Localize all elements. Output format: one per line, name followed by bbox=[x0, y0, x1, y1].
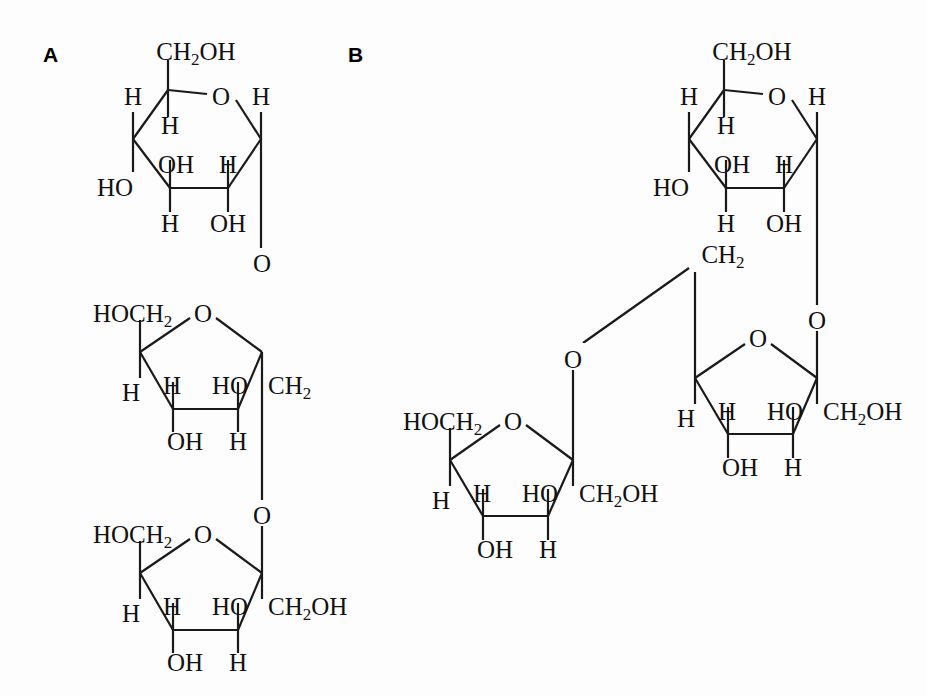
atom-label-h-c2-up: H bbox=[219, 151, 237, 178]
linker-b-right: O bbox=[806, 305, 828, 334]
atom-label-oh-c3: OH bbox=[714, 151, 750, 178]
bond-o-c2 bbox=[526, 425, 573, 460]
linker-a-top: O bbox=[251, 248, 273, 277]
atom-label-ring-oxygen: O bbox=[212, 83, 230, 110]
atom-label-ho-c1: HO bbox=[767, 398, 803, 425]
atom-label-h-c3-up: H bbox=[163, 593, 181, 620]
atom-label-h-c3-up: H bbox=[163, 372, 181, 399]
atom-label-hoch2: HOCH2 bbox=[93, 521, 172, 552]
atom-label-h-c5-down: H bbox=[161, 112, 179, 139]
atom-label-hoch2: HOCH2 bbox=[403, 408, 482, 439]
panel-label-a: A bbox=[43, 43, 58, 66]
ring-b-furanose-left: HOCH2 O H H HO CH2OH OH H bbox=[403, 408, 658, 563]
bond-ch2-to-o bbox=[583, 268, 689, 343]
atom-label-oh-c2-down: OH bbox=[210, 210, 246, 237]
atom-label-ring-oxygen: O bbox=[194, 521, 212, 548]
atom-label-h-c1-down: H bbox=[784, 454, 802, 481]
atom-label-h-c5-down: H bbox=[717, 112, 735, 139]
bond-c4-o bbox=[695, 344, 745, 378]
atom-label-ch2oh-arm: CH2OH bbox=[579, 480, 658, 511]
figure-root: A bbox=[0, 0, 927, 696]
atom-label-h-c2-up: H bbox=[775, 151, 793, 178]
atom-label-ch2oh: CH2OH bbox=[156, 38, 235, 69]
ring-a-pyranose: CH2OH O H H H OH H HO H OH bbox=[97, 38, 270, 248]
bond-c5-o bbox=[724, 90, 763, 94]
atom-label-ring-oxygen: O bbox=[194, 300, 212, 327]
atom-label-h-c1-up: H bbox=[808, 83, 826, 110]
linker-a-bottom: O bbox=[251, 500, 273, 529]
ring-a-furanose-bottom: HOCH2 O H H HO CH2OH OH H bbox=[93, 521, 347, 676]
atom-label-oh-c2-down: OH bbox=[766, 210, 802, 237]
atom-label-ho-c1: HO bbox=[522, 480, 558, 507]
atom-label-h-c1-down: H bbox=[229, 649, 247, 676]
atom-label-linker-o-right: O bbox=[808, 307, 826, 334]
bond-o-c2 bbox=[216, 318, 262, 352]
atom-label-h-c3-up: H bbox=[718, 398, 736, 425]
atom-label-linker-o-top: O bbox=[253, 250, 271, 277]
atom-label-h-c3-down: H bbox=[717, 210, 735, 237]
atom-label-ho-c1: HO bbox=[212, 593, 248, 620]
atom-label-h-c4-up: H bbox=[680, 83, 698, 110]
atom-label-h-c4-left: H bbox=[122, 600, 140, 627]
panel-label-b: B bbox=[348, 43, 363, 66]
atom-label-ch2oh-arm: CH2OH bbox=[823, 398, 902, 429]
atom-label-h-c3-up: H bbox=[473, 480, 491, 507]
atom-label-ho-c1: HO bbox=[212, 372, 248, 399]
atom-label-oh-c3-down: OH bbox=[167, 428, 203, 455]
atom-label-ring-oxygen: O bbox=[504, 408, 522, 435]
ring-b-furanose-right: CH2 O H H HO CH2OH OH H bbox=[677, 241, 902, 481]
atom-label-h-c1-down: H bbox=[539, 536, 557, 563]
atom-label-ho-c4: HO bbox=[97, 174, 133, 201]
bond-o-c2 bbox=[216, 539, 262, 573]
atom-label-oh-c3: OH bbox=[158, 151, 194, 178]
chemical-structure-canvas: A bbox=[0, 0, 927, 696]
atom-label-ring-oxygen: O bbox=[768, 83, 786, 110]
atom-label-ch2oh-arm: CH2OH bbox=[268, 593, 347, 624]
atom-label-ho-c4: HO bbox=[653, 174, 689, 201]
atom-label-bridge-o: O bbox=[564, 346, 582, 373]
atom-label-oh-c3-down: OH bbox=[477, 536, 513, 563]
atom-label-ch2oh: CH2OH bbox=[712, 38, 791, 69]
atom-label-h-c1-down: H bbox=[229, 428, 247, 455]
atom-label-ch2-bridge: CH2 bbox=[701, 241, 744, 272]
bridge-b-ch2-o: O bbox=[561, 268, 689, 460]
atom-label-ch2-arm: CH2 bbox=[268, 372, 311, 403]
atom-label-oh-c3-down: OH bbox=[167, 649, 203, 676]
ring-a-furanose-middle: HOCH2 O H H HO CH2 OH H bbox=[93, 300, 311, 500]
atom-label-h-c4-left: H bbox=[122, 379, 140, 406]
atom-label-hoch2: HOCH2 bbox=[93, 300, 172, 331]
atom-label-linker-o-bottom: O bbox=[253, 502, 271, 529]
atom-label-h-c4-left: H bbox=[432, 487, 450, 514]
atom-label-h-c1-up: H bbox=[252, 83, 270, 110]
bond-o-c2 bbox=[771, 344, 817, 378]
atom-label-oh-c3-down: OH bbox=[722, 454, 758, 481]
bond-c5-o bbox=[168, 90, 207, 94]
atom-label-h-c3-down: H bbox=[161, 210, 179, 237]
atom-label-h-c4-up: H bbox=[124, 83, 142, 110]
atom-label-h-c4-left: H bbox=[677, 405, 695, 432]
atom-label-ring-oxygen: O bbox=[749, 325, 767, 352]
